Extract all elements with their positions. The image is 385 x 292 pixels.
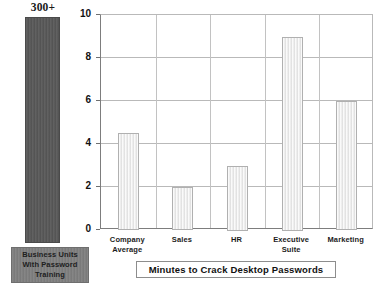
y-tick-label-6: 6: [75, 94, 91, 105]
bar-marketing: [336, 101, 357, 230]
gridline-y-8: [101, 57, 372, 58]
plot-area: [100, 14, 373, 229]
category-divider-2: [210, 15, 211, 228]
x-tick-label-1: Sales: [155, 235, 210, 245]
chart-screenshot: 300+ Business Units With Password Traini…: [0, 0, 385, 292]
category-divider-4: [319, 15, 320, 228]
bar-company-average: [118, 133, 139, 230]
y-tick-mark-0: [96, 229, 100, 230]
category-divider-3: [265, 15, 266, 228]
bar-sales: [172, 187, 193, 230]
y-tick-label-10: 10: [75, 8, 91, 19]
y-tick-label-0: 0: [75, 223, 91, 234]
y-tick-label-4: 4: [75, 137, 91, 148]
gridline-y-4: [101, 143, 372, 144]
axis-title-label: Minutes to Crack Desktop Passwords: [149, 264, 324, 275]
y-tick-label-8: 8: [75, 51, 91, 62]
x-tick-label-0: Company Average: [100, 235, 155, 254]
x-tick-label-2: HR: [209, 235, 264, 245]
category-divider-1: [156, 15, 157, 228]
y-tick-label-2: 2: [75, 180, 91, 191]
gridline-y-10: [101, 14, 372, 15]
bar-hr: [227, 166, 248, 231]
x-tick-label-4: Marketing: [318, 235, 373, 245]
x-tick-label-3: Executive Suite: [264, 235, 319, 254]
axis-title-box: Minutes to Crack Desktop Passwords: [136, 261, 336, 278]
bar-executive-suite: [282, 37, 303, 231]
gridline-y-6: [101, 100, 372, 101]
bar-chart: 0246810 Company AverageSalesHRExecutive …: [0, 0, 385, 292]
